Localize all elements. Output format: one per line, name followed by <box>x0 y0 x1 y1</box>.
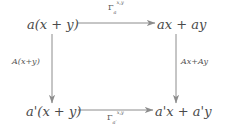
node-top-left-text: a(x + y) <box>27 17 79 32</box>
edge-label-right-text: Ax+Ay <box>181 57 208 66</box>
gamma-subscript-bottom-prime: ′ <box>116 119 117 125</box>
commutative-diagram: a(x + y) ax + ay a'(x + y) a'x + a'y Γax… <box>0 0 227 136</box>
node-bottom-left: a'(x + y) <box>26 105 81 118</box>
edge-label-right: Ax+Ay <box>181 58 208 66</box>
edge-label-left-text: A(x+y) <box>12 57 40 66</box>
node-bottom-right-text: a'x + a'y <box>155 104 211 119</box>
node-bottom-left-text: a'(x + y) <box>26 104 81 119</box>
gamma-superscript-bottom-y: y <box>121 109 124 115</box>
node-bottom-right: a'x + a'y <box>155 105 211 118</box>
node-top-right-text: ax + ay <box>157 17 206 32</box>
gamma-superscript-top-y: y <box>121 0 124 5</box>
edge-label-bottom: Γa′x,y <box>107 114 124 122</box>
gamma-subscript-top: a <box>114 9 117 15</box>
node-top-right: ax + ay <box>157 18 206 31</box>
edge-label-left: A(x+y) <box>12 58 40 66</box>
edge-label-top: Γax,y <box>108 4 124 12</box>
node-top-left: a(x + y) <box>27 18 79 31</box>
